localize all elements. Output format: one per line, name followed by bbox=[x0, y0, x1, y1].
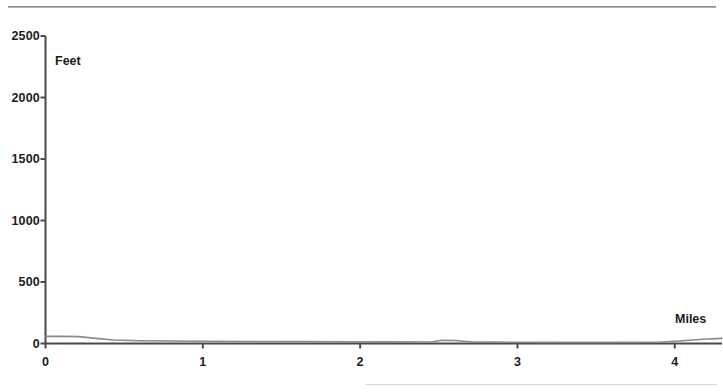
y-axis-tick-label: 0 bbox=[0, 337, 40, 351]
chart-page: 05001000150020002500 01234 Feet Miles bbox=[0, 0, 723, 392]
y-axis-tick-label: 500 bbox=[0, 275, 40, 289]
x-axis-tick-label: 2 bbox=[345, 355, 375, 369]
y-axis bbox=[41, 36, 46, 344]
elevation-profile-chart bbox=[0, 0, 723, 392]
y-axis-tick-label: 1500 bbox=[0, 152, 40, 166]
x-axis bbox=[45, 344, 722, 349]
x-axis-tick-label: 1 bbox=[188, 355, 218, 369]
x-axis-title: Miles bbox=[675, 312, 706, 326]
y-axis-tick-label: 1000 bbox=[0, 214, 40, 228]
y-axis-title: Feet bbox=[55, 54, 81, 68]
x-axis-tick-label: 3 bbox=[502, 355, 532, 369]
y-axis-tick-label: 2500 bbox=[0, 29, 40, 43]
chart-svg bbox=[0, 0, 723, 392]
x-axis-tick-label: 4 bbox=[660, 355, 690, 369]
x-axis-tick-label: 0 bbox=[31, 355, 61, 369]
elevation-line bbox=[46, 336, 723, 342]
y-axis-tick-label: 2000 bbox=[0, 91, 40, 105]
data-series-group bbox=[46, 336, 723, 342]
